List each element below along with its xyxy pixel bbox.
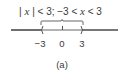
tick-label-neg3: −3: [30, 38, 50, 49]
tick-label-3: 3: [72, 38, 92, 49]
figure-caption: (a): [47, 59, 77, 70]
tick-label-0: 0: [52, 38, 72, 49]
interval-brace: [41, 20, 83, 26]
